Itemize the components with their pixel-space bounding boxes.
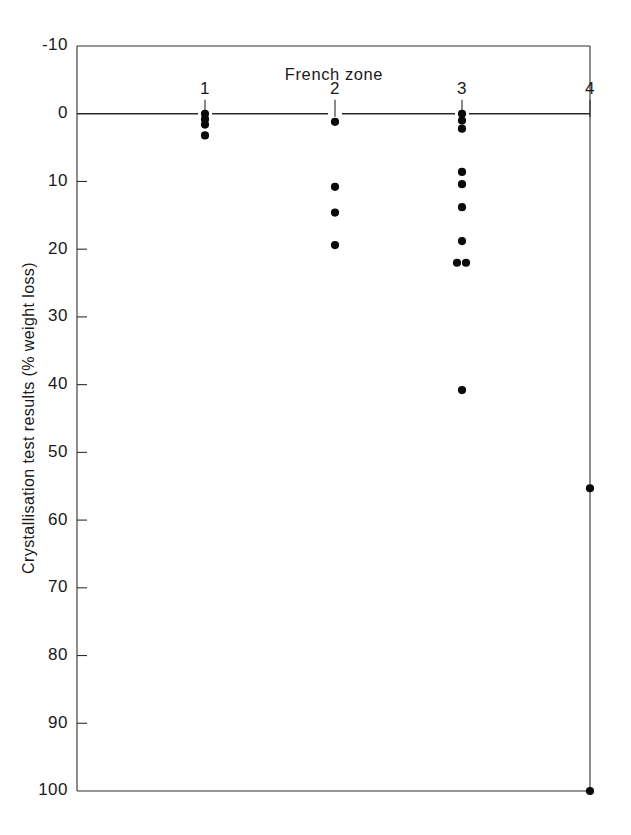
plot-frame — [77, 46, 590, 791]
data-point — [458, 116, 466, 124]
zone-label-1: 1 — [200, 79, 210, 98]
data-point — [331, 183, 339, 191]
y-axis-tick-labels: -100102030405060708090100 — [38, 35, 68, 799]
data-point — [331, 118, 339, 126]
y-tick-label: 70 — [48, 577, 68, 596]
chart-title: French zone — [285, 65, 383, 83]
data-point — [201, 131, 209, 139]
data-point — [586, 787, 594, 795]
y-tick-label: 10 — [48, 171, 68, 190]
y-tick-label: 40 — [48, 374, 68, 393]
y-tick-label: 30 — [48, 306, 68, 325]
data-point — [586, 484, 594, 492]
zone-label-4: 4 — [585, 79, 595, 98]
data-point — [453, 259, 461, 267]
data-point-layer — [201, 110, 594, 795]
y-tick-label: 0 — [58, 103, 68, 122]
y-tick-label: 100 — [38, 780, 68, 799]
y-tick-label: 60 — [48, 510, 68, 529]
y-axis-tick-marks — [77, 181, 87, 723]
plot-canvas: -100102030405060708090100 1234 French zo… — [0, 0, 631, 835]
data-point — [462, 259, 470, 267]
data-point — [458, 237, 466, 245]
y-tick-label: 80 — [48, 645, 68, 664]
data-point — [458, 386, 466, 394]
data-point — [458, 125, 466, 133]
data-point — [458, 180, 466, 188]
crystallisation-dot-plot-figure: -100102030405060708090100 1234 French zo… — [0, 0, 631, 835]
data-point — [201, 120, 209, 128]
y-tick-label: 50 — [48, 442, 68, 461]
y-axis-title: Crystallisation test results (% weight l… — [20, 262, 37, 574]
y-tick-label: 90 — [48, 713, 68, 732]
data-point — [331, 209, 339, 217]
y-tick-label: -10 — [42, 35, 68, 54]
data-point — [458, 203, 466, 211]
y-tick-label: 20 — [48, 239, 68, 258]
zone-labels: 1234 — [200, 79, 595, 98]
zone-label-3: 3 — [457, 79, 467, 98]
data-point — [458, 168, 466, 176]
data-point — [331, 241, 339, 249]
